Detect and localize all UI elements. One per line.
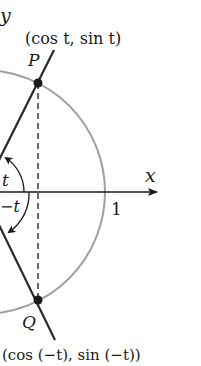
p-coordinates-label: (cos t, sin t) xyxy=(25,29,121,48)
point-q xyxy=(34,296,43,305)
angle-neg-t-label: −t xyxy=(0,197,20,216)
q-label: Q xyxy=(22,312,36,332)
x-axis-label: x xyxy=(145,164,156,186)
angle-t-label: t xyxy=(2,170,9,190)
y-axis-label: y xyxy=(0,4,11,26)
p-label: P xyxy=(27,50,40,70)
q-coordinates-label: (cos (−t), sin (−t)) xyxy=(2,346,141,364)
point-p xyxy=(34,79,43,88)
unit-circle-diagram: y (cos t, sin t) P x 1 t −t Q (cos (−t),… xyxy=(0,0,201,366)
unit-tick-label: 1 xyxy=(111,199,122,219)
